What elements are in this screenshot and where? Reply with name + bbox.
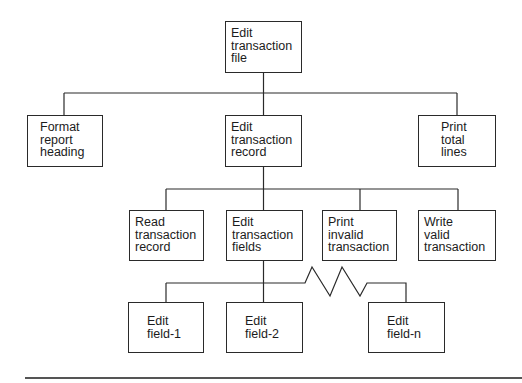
node-print-total-lines: Print total lines [418,115,496,167]
node-label-line: field-2 [245,328,302,341]
node-label-line: transaction [424,241,495,254]
node-print-invalid-transaction: Print invalid transaction [322,210,397,261]
node-label-line: transaction [328,241,396,254]
node-edit-field-2: Edit field-2 [226,302,303,353]
node-write-valid-transaction: Write valid transaction [418,210,496,261]
node-label-line: Format [40,121,102,134]
node-edit-transaction-fields: Edit transaction fields [226,210,303,261]
node-label-line: file [231,52,301,65]
node-label-line: Write [424,216,495,229]
node-label-line: fields [232,241,302,254]
node-label-line: Print [441,121,495,134]
node-label-line: record [135,241,203,254]
node-label-line: Edit [231,121,301,134]
node-read-transaction-record: Read transaction record [129,210,204,261]
node-label-line: Edit [245,315,302,328]
node-label-line: heading [40,146,102,159]
node-label-line: field-1 [147,328,203,341]
node-label-line: Edit [232,216,302,229]
node-label-line: Print [328,216,396,229]
node-edit-field-1: Edit field-1 [128,302,204,353]
node-label-line: Edit [387,315,444,328]
node-edit-transaction-record: Edit transaction record [225,115,302,167]
node-label-line: record [231,146,301,159]
bottom-rule-divider [25,377,522,379]
node-label-line: field-n [387,328,444,341]
hierarchy-diagram: Edit transaction file Format report head… [0,0,522,383]
node-edit-field-n: Edit field-n [368,302,445,353]
node-label-line: Edit [231,27,301,40]
node-format-report-heading: Format report heading [27,115,103,167]
node-label-line: lines [441,146,495,159]
node-label-line: Edit [147,315,203,328]
node-edit-transaction-file: Edit transaction file [225,21,302,73]
node-label-line: Read [135,216,203,229]
